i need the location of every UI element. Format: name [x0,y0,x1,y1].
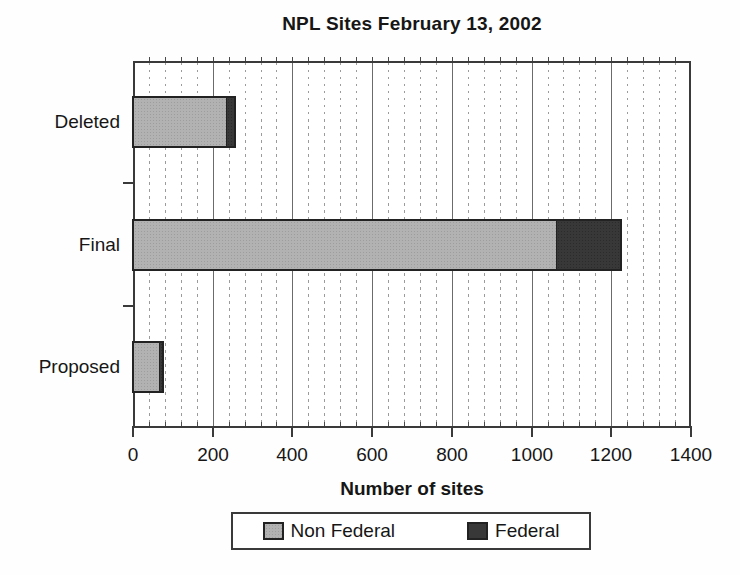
category-label-final: Final [0,235,120,254]
minor-tick-bottom [436,422,437,426]
bar-final [132,219,622,271]
minor-tick-bottom [404,422,405,426]
minor-tick-bottom [181,422,182,426]
minor-gridline [659,63,660,426]
x-tick-label: 600 [356,444,388,466]
x-tick-label: 1000 [511,444,553,466]
minor-tick-bottom [229,422,230,426]
minor-tick-top [181,57,182,61]
minor-tick-top [372,57,373,61]
minor-tick-bottom [245,422,246,426]
minor-tick-top [245,57,246,61]
x-tick-label: 0 [128,444,139,466]
minor-tick-top [292,57,293,61]
minor-tick-bottom [197,422,198,426]
minor-tick-top [404,57,405,61]
legend-label-non-federal: Non Federal [291,520,396,542]
federal-swatch-icon [467,522,488,540]
minor-tick-top [675,57,676,61]
minor-tick-top [165,57,166,61]
bar-segment-federal [556,221,620,269]
minor-tick-top [356,57,357,61]
minor-tick-top [276,57,277,61]
category-separator-tick [123,182,133,184]
minor-tick-top [213,57,214,61]
x-axis-major-tick [212,426,214,437]
x-axis-major-tick [690,426,692,437]
minor-tick-top [261,57,262,61]
minor-tick-bottom [516,422,517,426]
minor-tick-bottom [324,422,325,426]
minor-tick-bottom [548,422,549,426]
minor-tick-top [532,57,533,61]
minor-tick-bottom [308,422,309,426]
bar-segment-federal [159,343,162,391]
minor-tick-bottom [276,422,277,426]
legend-box: Non Federal Federal [231,512,591,550]
minor-tick-top [340,57,341,61]
x-axis-major-tick [371,426,373,437]
minor-tick-top [436,57,437,61]
npl-sites-bar-chart: NPL Sites February 13, 2002 020040060080… [0,0,740,575]
minor-tick-bottom [420,422,421,426]
minor-tick-bottom [675,422,676,426]
minor-tick-top [484,57,485,61]
minor-tick-bottom [579,422,580,426]
minor-tick-top [452,57,453,61]
minor-tick-top [229,57,230,61]
category-separator-tick [123,305,133,307]
minor-tick-bottom [595,422,596,426]
x-tick-label: 800 [436,444,468,466]
minor-tick-top [324,57,325,61]
minor-tick-top [659,57,660,61]
minor-tick-bottom [563,422,564,426]
legend-item-federal: Federal [467,520,559,542]
minor-tick-top [563,57,564,61]
x-axis-title: Number of sites [133,478,691,500]
legend-label-federal: Federal [495,520,559,542]
minor-gridline [675,63,676,426]
bar-segment-federal [226,98,234,146]
minor-tick-bottom [261,422,262,426]
minor-tick-top [308,57,309,61]
minor-tick-top [420,57,421,61]
minor-tick-bottom [500,422,501,426]
x-axis-major-tick [531,426,533,437]
bar-segment-non-federal [134,98,226,146]
minor-tick-bottom [356,422,357,426]
minor-tick-bottom [468,422,469,426]
x-axis-major-tick [451,426,453,437]
x-axis-major-tick [610,426,612,437]
minor-tick-top [516,57,517,61]
bar-deleted [132,96,236,148]
minor-tick-top [627,57,628,61]
minor-tick-bottom [659,422,660,426]
x-tick-label: 1400 [670,444,712,466]
category-label-proposed: Proposed [0,357,120,376]
minor-tick-top [611,57,612,61]
minor-tick-top [388,57,389,61]
x-axis-major-tick [291,426,293,437]
minor-tick-top [197,57,198,61]
minor-tick-bottom [149,422,150,426]
bar-segment-non-federal [134,221,556,269]
bar-segment-non-federal [134,343,159,391]
minor-gridline [627,63,628,426]
bar-proposed [132,341,164,393]
minor-tick-top [595,57,596,61]
minor-tick-top [643,57,644,61]
minor-tick-top [468,57,469,61]
minor-tick-bottom [484,422,485,426]
minor-tick-bottom [165,422,166,426]
category-label-deleted: Deleted [0,112,120,131]
minor-tick-top [579,57,580,61]
x-tick-label: 1200 [590,444,632,466]
legend-item-non-federal: Non Federal [263,520,396,542]
minor-gridline [643,63,644,426]
minor-tick-top [500,57,501,61]
minor-tick-top [548,57,549,61]
x-axis-major-tick [132,426,134,437]
non-federal-swatch-icon [263,522,284,540]
x-tick-label: 200 [197,444,229,466]
chart-title: NPL Sites February 13, 2002 [133,13,691,35]
